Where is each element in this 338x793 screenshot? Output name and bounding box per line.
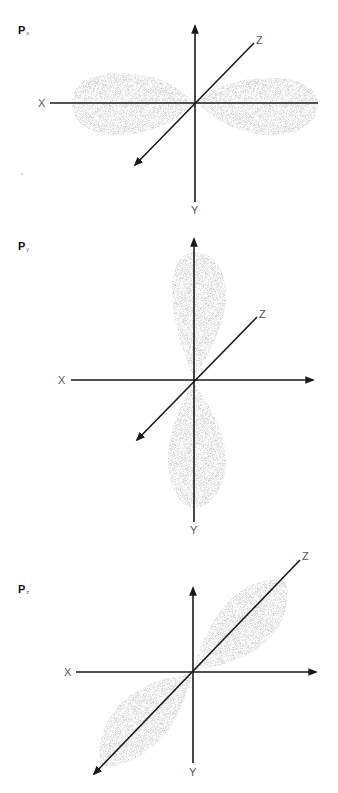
z-axis-label: Z	[302, 550, 309, 562]
title-px: Px	[18, 24, 29, 36]
title-main: P	[18, 583, 25, 595]
y-axis-label: Y	[190, 524, 198, 536]
panel-pz: X Y Z	[64, 550, 316, 778]
lobe-py-upper	[172, 252, 226, 378]
p-orbitals-diagram: X Y Z X Y Z X Y Z	[0, 0, 338, 793]
panel-py: X Y Z	[58, 239, 313, 536]
z-axis-label: Z	[259, 308, 266, 320]
x-axis-label: X	[38, 97, 46, 109]
z-axis	[94, 560, 300, 774]
title-py: Py	[18, 240, 29, 252]
y-axis-label: Y	[189, 766, 197, 778]
lobe-px-left	[72, 73, 194, 135]
title-main: P	[18, 240, 25, 252]
panel-px: X Y Z	[21, 26, 318, 216]
lobe-px-right	[196, 78, 318, 135]
stray-dot	[21, 173, 22, 174]
z-axis-label: Z	[256, 34, 263, 46]
x-axis-label: X	[58, 374, 66, 386]
title-subscript: z	[26, 589, 29, 595]
title-pz: Pz	[18, 583, 29, 595]
title-subscript: x	[26, 30, 29, 36]
y-axis-label: Y	[191, 204, 199, 216]
lobe-py-lower	[168, 382, 226, 508]
title-subscript: y	[26, 246, 29, 252]
title-main: P	[18, 24, 25, 36]
x-axis-label: X	[64, 666, 72, 678]
